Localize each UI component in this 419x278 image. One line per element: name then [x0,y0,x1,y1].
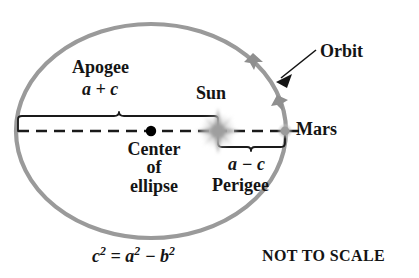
center-line-3: ellipse [108,177,200,195]
equation-c-exponent: 2 [100,244,106,258]
not-to-scale-label: NOT TO SCALE [262,248,385,264]
sun-label: Sun [196,84,226,102]
perigee-label: Perigee [212,176,269,194]
equation-minus: − [145,246,156,266]
equation-equals: = [110,246,120,266]
center-dot-icon [146,126,156,136]
orbit-diagram: Apogee a + c Sun Orbit Mars Center of el… [0,0,419,278]
mars-label: Mars [296,120,337,138]
perigee-value-label: a − c [228,155,265,173]
center-line-1: Center [108,140,200,158]
center-line-2: of [108,158,200,176]
equation-a: a [125,246,134,266]
planet-dot-icon [277,123,293,139]
equation-b-exponent: 2 [169,244,175,258]
apogee-bracket [18,112,218,131]
ellipse-equation-label: c2 = a2 − b2 [92,245,175,265]
orbit-label: Orbit [320,42,363,60]
apogee-value-label: a + c [82,80,118,98]
orbit-callout-arrow-icon [276,50,316,88]
equation-b: b [160,246,169,266]
equation-a-exponent: 2 [134,244,140,258]
equation-c: c [92,246,100,266]
center-of-ellipse-label: Center of ellipse [108,140,200,195]
apogee-label: Apogee [72,58,129,76]
